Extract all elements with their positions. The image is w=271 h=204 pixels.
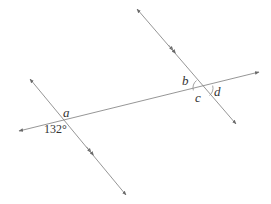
parallel-lines-diagram: a 132° b c d xyxy=(0,0,271,204)
label-d: d xyxy=(214,84,221,99)
left-parallel-line xyxy=(30,79,126,195)
label-given-angle: 132° xyxy=(44,122,67,136)
parallel-marker-left xyxy=(87,147,93,154)
parallel-marker-right xyxy=(169,45,175,52)
angle-arc-b xyxy=(193,81,196,91)
label-b: b xyxy=(182,73,189,88)
right-parallel-line xyxy=(137,9,236,124)
label-c: c xyxy=(195,90,201,105)
label-a: a xyxy=(63,105,70,120)
